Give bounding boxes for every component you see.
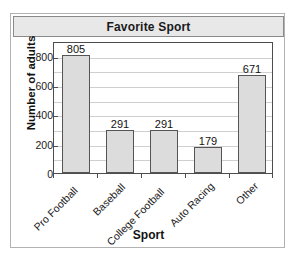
bar — [62, 55, 90, 173]
chart-title-bar: Favorite Sport — [13, 16, 284, 37]
plot-area: 805291291179671 — [53, 42, 273, 174]
chart-title: Favorite Sport — [106, 20, 190, 34]
y-axis-tick-mark — [54, 146, 58, 147]
x-axis-category-label: Auto Racing — [168, 181, 216, 229]
y-axis-tick-mark — [54, 58, 58, 59]
bar-value-label: 291 — [140, 118, 188, 130]
y-axis-tick-label: 400 — [29, 110, 53, 120]
bar — [194, 147, 222, 173]
bar-value-label: 805 — [53, 43, 100, 55]
x-axis-category-labels: Pro FootballBaseballCollege FootballAuto… — [11, 178, 286, 228]
y-axis-tick-mark — [54, 116, 58, 117]
bar — [238, 75, 266, 173]
bar — [150, 130, 178, 173]
x-axis-title: Sport — [11, 228, 286, 242]
x-axis-category-label: Pro Football — [32, 185, 80, 233]
y-axis-tick-label: 800 — [29, 52, 53, 62]
bar-value-label: 179 — [184, 135, 232, 147]
y-axis-tick-mark — [54, 87, 58, 88]
bar-value-label: 291 — [96, 118, 144, 130]
x-axis-category-label: Other — [234, 180, 260, 206]
x-axis-category-label: Baseball — [91, 182, 127, 218]
bar-value-label: 671 — [228, 63, 273, 75]
bar — [106, 130, 134, 173]
chart-card: Favorite Sport Number of adults 02004006… — [10, 13, 285, 248]
y-axis-tick-label: 200 — [29, 140, 53, 150]
y-axis-tick-label: 600 — [29, 81, 53, 91]
x-axis-title-label: Sport — [133, 228, 164, 242]
y-axis-tick-labels: 0200400600800 — [29, 42, 53, 174]
